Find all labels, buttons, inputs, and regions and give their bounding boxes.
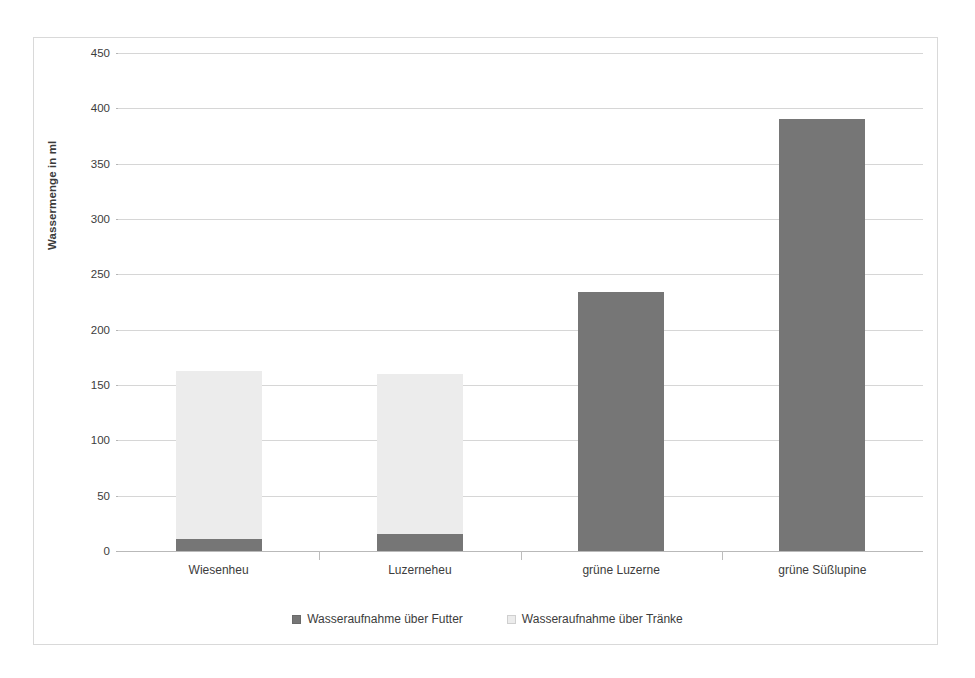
bar-group[interactable]	[377, 53, 463, 551]
x-axis-divider	[521, 551, 522, 560]
y-tick-label: 400	[50, 102, 110, 114]
chart-legend: Wasseraufnahme über FutterWasseraufnahme…	[0, 612, 975, 626]
x-tick-label: grüne Süßlupine	[778, 563, 866, 577]
y-tick-label: 350	[50, 158, 110, 170]
y-tick-label: 0	[50, 545, 110, 557]
y-tick-label: 200	[50, 324, 110, 336]
bar-segment[interactable]	[377, 374, 463, 534]
plot-area	[118, 53, 923, 551]
y-tick-label: 100	[50, 434, 110, 446]
legend-item[interactable]: Wasseraufnahme über Futter	[292, 612, 463, 626]
chart-container: Wassermenge in ml 4504003503002502001501…	[0, 0, 975, 678]
bar-group[interactable]	[578, 53, 664, 551]
x-axis-divider	[319, 551, 320, 560]
bar-segment[interactable]	[176, 371, 262, 539]
legend-swatch-icon	[292, 615, 301, 624]
x-axis-divider	[722, 551, 723, 560]
y-axis-ticks: 450400350300250200150100500	[48, 53, 110, 551]
bar-group[interactable]	[176, 53, 262, 551]
bar-segment[interactable]	[377, 534, 463, 551]
y-tick-label: 450	[50, 47, 110, 59]
y-tick-label: 300	[50, 213, 110, 225]
bar-segment[interactable]	[578, 292, 664, 551]
x-tick-label: Wiesenheu	[189, 563, 249, 577]
bar-segment[interactable]	[176, 539, 262, 551]
x-tick-label: grüne Luzerne	[582, 563, 659, 577]
y-tick-label: 150	[50, 379, 110, 391]
legend-item[interactable]: Wasseraufnahme über Tränke	[507, 612, 683, 626]
legend-swatch-icon	[507, 615, 516, 624]
bar-group[interactable]	[779, 53, 865, 551]
x-axis-labels: WiesenheuLuzerneheugrüne Luzernegrüne Sü…	[118, 563, 923, 589]
legend-label: Wasseraufnahme über Futter	[307, 612, 463, 626]
x-tick-label: Luzerneheu	[388, 563, 451, 577]
bar-segment[interactable]	[779, 119, 865, 551]
legend-label: Wasseraufnahme über Tränke	[522, 612, 683, 626]
y-tick-label: 50	[50, 490, 110, 502]
y-tick-label: 250	[50, 268, 110, 280]
